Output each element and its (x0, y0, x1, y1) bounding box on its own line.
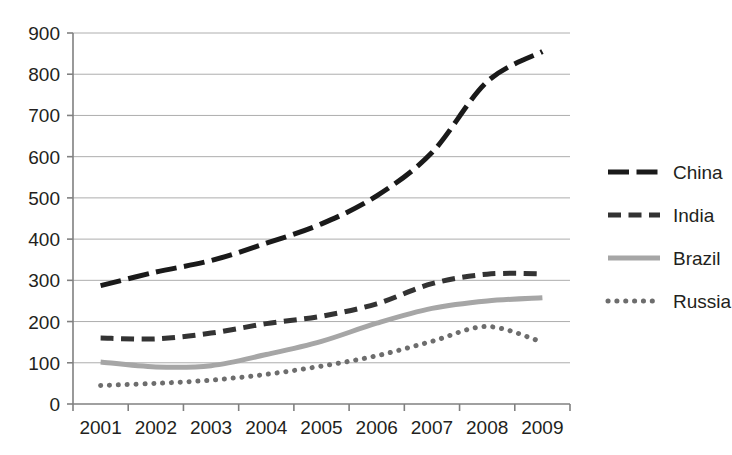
y-tick-label: 600 (28, 147, 60, 168)
legend-label-china: China (673, 162, 723, 183)
y-tick-label: 200 (28, 312, 60, 333)
x-tick-label: 2005 (300, 417, 342, 438)
gridlines (73, 33, 570, 363)
x-axis-ticks (73, 404, 570, 411)
chart-canvas: 0100200300400500600700800900 20012002200… (0, 0, 732, 455)
legend-label-brazil: Brazil (673, 248, 721, 269)
x-axis-tick-labels: 200120022003200420052006200720082009 (79, 417, 563, 438)
x-tick-label: 2006 (356, 417, 398, 438)
x-tick-label: 2004 (245, 417, 288, 438)
line-chart: 0100200300400500600700800900 20012002200… (0, 0, 732, 455)
y-tick-label: 500 (28, 188, 60, 209)
x-tick-label: 2007 (411, 417, 453, 438)
y-tick-label: 400 (28, 229, 60, 250)
x-tick-label: 2009 (521, 417, 563, 438)
x-tick-label: 2008 (466, 417, 508, 438)
legend: ChinaIndiaBrazilRussia (608, 162, 732, 312)
y-axis-tick-labels: 0100200300400500600700800900 (28, 23, 60, 415)
x-tick-label: 2001 (79, 417, 121, 438)
y-tick-label: 300 (28, 270, 60, 291)
legend-label-russia: Russia (673, 291, 732, 312)
axes (73, 33, 570, 404)
y-tick-label: 900 (28, 23, 60, 44)
data-series-group (101, 52, 543, 386)
y-tick-label: 0 (49, 394, 60, 415)
legend-label-india: India (673, 205, 715, 226)
series-line-brazil (101, 298, 543, 368)
y-tick-label: 700 (28, 105, 60, 126)
y-tick-label: 800 (28, 64, 60, 85)
series-line-russia (101, 327, 543, 386)
y-axis-ticks (67, 33, 73, 404)
x-tick-label: 2002 (135, 417, 177, 438)
series-line-china (101, 52, 543, 286)
x-tick-label: 2003 (190, 417, 232, 438)
y-tick-label: 100 (28, 353, 60, 374)
